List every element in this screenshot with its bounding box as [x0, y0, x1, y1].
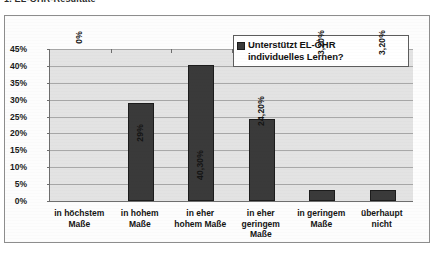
gridline [50, 184, 413, 185]
x-axis-label: überhauptnicht [352, 208, 413, 229]
y-axis-label: 40% [0, 61, 27, 71]
bar-value-label: 3,20% [316, 30, 326, 55]
chart-frame: Unterstützt EL-ÖHR individuelles Lernen?… [4, 15, 430, 243]
y-axis-tick-mark [47, 66, 50, 67]
gridline [50, 117, 413, 118]
y-axis-label: 30% [0, 95, 27, 105]
x-axis-label-line: in eher [231, 208, 292, 219]
bar [249, 119, 275, 201]
bar [188, 65, 214, 201]
legend-color-swatch [237, 42, 245, 50]
x-axis-tick-mark [171, 49, 172, 53]
plot-area [49, 49, 413, 202]
gridline [50, 150, 413, 151]
y-axis-tick-mark [47, 167, 50, 168]
y-axis-label: 10% [0, 162, 27, 172]
x-axis-label-line: geringem [231, 219, 292, 230]
y-axis-tick-mark [47, 184, 50, 185]
legend-label-line2: individuelles Lernen? [248, 51, 344, 63]
x-axis-label-line: Maße [110, 219, 171, 230]
bar-value-label: 3,20% [377, 30, 387, 55]
x-axis-label-line: nicht [352, 219, 413, 230]
y-axis-label: 25% [0, 112, 27, 122]
y-axis-label: 35% [0, 78, 27, 88]
legend-label-line1: Unterstützt EL-ÖHR [248, 39, 344, 51]
y-axis-label: 0% [0, 196, 27, 206]
x-axis-label-line: in höchstem [49, 208, 110, 219]
x-axis-label-line: in eher [170, 208, 231, 219]
bar-value-label: 29% [135, 124, 145, 142]
x-axis-label-line: überhaupt [352, 208, 413, 219]
bar [370, 190, 396, 201]
x-axis-label: in hohemMaße [110, 208, 171, 229]
x-axis-label: in ehergeringemMaße [231, 208, 292, 240]
gridline [50, 167, 413, 168]
x-axis-label-line: in hohem [110, 208, 171, 219]
x-axis-label-line: Maße [49, 219, 110, 230]
y-axis-tick-mark [47, 201, 50, 202]
x-axis-label: in geringemMaße [291, 208, 352, 229]
gridline [50, 100, 413, 101]
x-axis-label-line: hohem Maße [170, 219, 231, 230]
y-axis-tick-mark [47, 100, 50, 101]
y-axis-tick-mark [47, 150, 50, 151]
x-axis-label: in eherhohem Maße [170, 208, 231, 229]
y-axis-tick-mark [47, 133, 50, 134]
bar-value-label: 24,20% [256, 96, 266, 126]
x-axis-label-line: Maße [291, 219, 352, 230]
y-axis-label: 20% [0, 128, 27, 138]
gridline [50, 83, 413, 84]
x-axis-label-line: in geringem [291, 208, 352, 219]
y-axis-tick-mark [47, 83, 50, 84]
x-axis-label: in höchstemMaße [49, 208, 110, 229]
y-axis-label: 15% [0, 145, 27, 155]
legend-label: Unterstützt EL-ÖHR individuelles Lernen? [248, 39, 344, 63]
bar-value-label: 0% [74, 31, 84, 44]
bar [309, 190, 335, 201]
y-axis-label: 5% [0, 179, 27, 189]
bar [128, 103, 154, 201]
gridline [50, 133, 413, 134]
y-axis-label: 45% [0, 44, 27, 54]
bar-value-label: 40,30% [195, 150, 205, 180]
cut-off-heading-fragment: 1. EL-ÖHR-Resultate [4, 0, 96, 2]
x-axis-tick-mark [111, 49, 112, 53]
x-axis-label-line: Maße [231, 229, 292, 240]
y-axis-tick-mark [47, 117, 50, 118]
y-axis-tick-mark [47, 49, 50, 50]
